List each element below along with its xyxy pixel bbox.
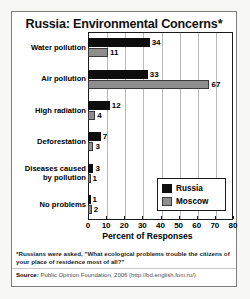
bar-russia <box>88 195 91 204</box>
bar-moscow <box>88 80 209 89</box>
bar-moscow <box>88 174 91 183</box>
category-axis-labels: Water pollutionAir pollutionHigh radiati… <box>14 32 86 220</box>
source-text: Public Opinion Foundation, 2006 (http://… <box>40 272 195 278</box>
source-divider <box>12 268 236 269</box>
x-tick-mark <box>215 216 216 219</box>
chart-legend: Russia Moscow <box>157 178 226 211</box>
bar-value-label: 2 <box>94 205 98 214</box>
x-tick-mark <box>197 216 198 219</box>
x-tick-label: 0 <box>80 221 96 230</box>
x-tick-mark <box>179 216 180 219</box>
x-tick-label: 80 <box>225 221 241 230</box>
footnote-text: *Russians were asked, "What ecological p… <box>16 250 230 265</box>
source-line: Source: Public Opinion Foundation, 2006 … <box>16 271 230 279</box>
x-tick-label: 50 <box>171 221 187 230</box>
category-label: Deforestation <box>14 137 86 146</box>
x-tick-mark <box>161 216 162 219</box>
bar-russia <box>88 70 148 79</box>
figure-root: Russia: Environmental Concerns* Water po… <box>0 0 250 299</box>
bar-moscow <box>88 205 92 214</box>
chart-title: Russia: Environmental Concerns* <box>24 14 224 34</box>
x-tick-mark <box>142 216 143 219</box>
legend-item-moscow: Moscow <box>162 195 225 208</box>
category-label: Water pollution <box>14 43 86 52</box>
bar-value-label: 1 <box>93 174 97 183</box>
bar-value-label: 12 <box>112 101 121 110</box>
bar-value-label: 7 <box>103 132 107 141</box>
legend-label-moscow: Moscow <box>176 197 208 206</box>
x-tick-mark <box>88 216 89 219</box>
legend-swatch-moscow-icon <box>162 197 172 206</box>
category-label: Air pollution <box>14 74 86 83</box>
legend-swatch-russia-icon <box>162 184 172 193</box>
bar-value-label: 67 <box>211 80 220 89</box>
legend-item-russia: Russia <box>162 182 225 195</box>
bar-value-label: 3 <box>95 142 99 151</box>
x-tick-mark <box>124 216 125 219</box>
category-label: Diseases causedby pollution <box>14 164 86 182</box>
bar-value-label: 34 <box>152 38 161 47</box>
x-tick-mark <box>106 216 107 219</box>
x-tick-label: 10 <box>98 221 114 230</box>
bar-moscow <box>88 111 95 120</box>
chart-title-text: Russia: Environmental Concerns* <box>26 17 223 31</box>
bar-russia <box>88 164 93 173</box>
x-tick-label: 40 <box>153 221 169 230</box>
bar-value-label: 33 <box>150 70 159 79</box>
x-tick-label: 70 <box>207 221 223 230</box>
x-tick-label: 20 <box>116 221 132 230</box>
x-tick-label: 30 <box>134 221 150 230</box>
bar-moscow <box>88 48 108 57</box>
legend-label-russia: Russia <box>176 184 203 193</box>
bar-moscow <box>88 142 93 151</box>
bar-russia <box>88 132 101 141</box>
bar-value-label: 3 <box>95 164 99 173</box>
category-label: No problems <box>14 200 86 209</box>
category-label: High radiation <box>14 106 86 115</box>
x-tick-mark <box>233 216 234 219</box>
source-label: Source: <box>16 271 39 278</box>
bar-value-label: 4 <box>97 111 101 120</box>
bar-value-label: 1 <box>93 195 97 204</box>
bar-russia <box>88 101 110 110</box>
x-axis-title: Percent of Responses <box>60 231 235 241</box>
bar-russia <box>88 38 150 47</box>
bar-value-label: 11 <box>110 48 118 57</box>
x-tick-label: 60 <box>189 221 205 230</box>
